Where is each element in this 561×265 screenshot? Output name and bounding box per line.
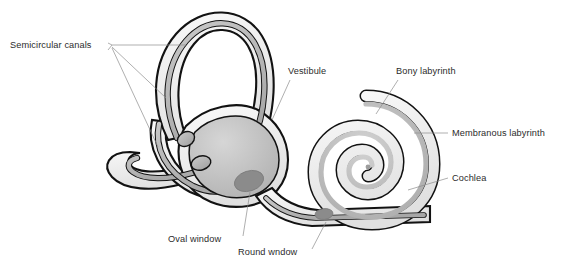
label-cochlea: Cochlea (452, 173, 487, 183)
label-bony-labyrinth: Bony labyrinth (396, 66, 456, 76)
leader-semicircular-canals-tick (108, 43, 112, 50)
label-vestibule: Vestibule (288, 66, 326, 76)
leader-semicircular-canals-3 (112, 48, 158, 147)
label-round-window: Round wndow (238, 247, 298, 257)
cochlea-modiolus (366, 165, 371, 170)
label-membranous-labyrinth: Membranous labyrinth (452, 128, 545, 138)
inner-ear-diagram: Semicircular canals Vestibule Bony labyr… (0, 0, 561, 265)
label-semicircular-canals: Semicircular canals (10, 40, 92, 50)
bony-labyrinth-group (107, 12, 434, 226)
label-oval-window: Oval window (168, 234, 221, 244)
inner-ear-figure: Semicircular canals Vestibule Bony labyr… (0, 0, 561, 265)
